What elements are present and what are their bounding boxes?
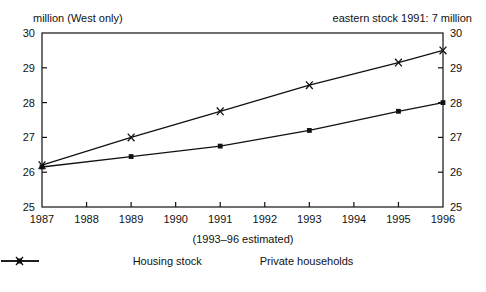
svg-text:26: 26 xyxy=(450,166,462,178)
y-axis-left: 252627282930 xyxy=(23,27,47,213)
svg-text:30: 30 xyxy=(23,27,35,39)
svg-text:30: 30 xyxy=(450,27,462,39)
chart-subtitle: (1993–96 estimated) xyxy=(0,233,486,245)
line-chart-plot: 252627282930 252627282930 19871988198919… xyxy=(0,0,486,292)
chart-legend: Housing stock Private households xyxy=(0,255,486,267)
svg-text:1995: 1995 xyxy=(386,213,410,225)
svg-text:1996: 1996 xyxy=(431,213,455,225)
x-axis: 1987198819891990199119921993199419951996 xyxy=(30,202,455,225)
svg-text:25: 25 xyxy=(450,201,462,213)
svg-text:1992: 1992 xyxy=(253,213,277,225)
svg-text:1994: 1994 xyxy=(342,213,366,225)
legend-item-private-households: Private households xyxy=(260,255,354,267)
y-axis-right: 252627282930 xyxy=(438,27,462,213)
svg-text:29: 29 xyxy=(450,62,462,74)
svg-text:1993: 1993 xyxy=(297,213,321,225)
svg-text:27: 27 xyxy=(23,131,35,143)
svg-text:1988: 1988 xyxy=(74,213,98,225)
svg-text:25: 25 xyxy=(23,201,35,213)
svg-text:1989: 1989 xyxy=(119,213,143,225)
svg-text:27: 27 xyxy=(450,131,462,143)
chart-container: million (West only) eastern stock 1991: … xyxy=(0,0,486,292)
svg-text:1987: 1987 xyxy=(30,213,54,225)
legend-label: Housing stock xyxy=(133,255,202,267)
plot-frame xyxy=(42,33,443,207)
legend-item-housing-stock: Housing stock xyxy=(133,255,202,267)
svg-text:28: 28 xyxy=(23,97,35,109)
data-series-group xyxy=(39,47,447,170)
legend-label: Private households xyxy=(260,255,354,267)
svg-text:1990: 1990 xyxy=(163,213,187,225)
legend-marker-cross-icon xyxy=(0,255,40,267)
svg-text:29: 29 xyxy=(23,62,35,74)
svg-text:26: 26 xyxy=(23,166,35,178)
svg-text:28: 28 xyxy=(450,97,462,109)
svg-text:1991: 1991 xyxy=(208,213,232,225)
